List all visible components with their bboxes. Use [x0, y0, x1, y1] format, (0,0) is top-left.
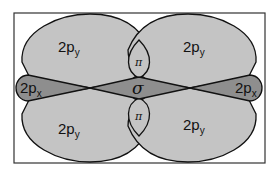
- label-sigma: σ: [132, 78, 144, 98]
- orbital-overlap-diagram: 2py 2py 2py 2py 2px 2px σ π π: [0, 0, 278, 173]
- label-pi-upper: π: [134, 56, 143, 69]
- label-pi-lower: π: [134, 110, 143, 123]
